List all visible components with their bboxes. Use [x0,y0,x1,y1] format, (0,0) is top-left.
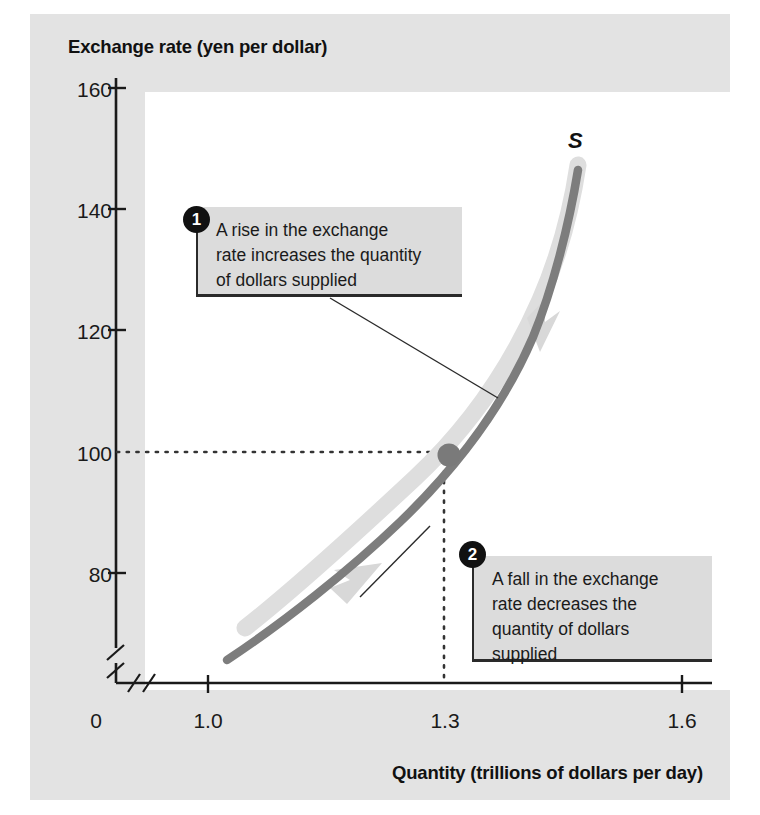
callout-2-text: A fall in the exchange rate decreases th… [474,556,712,676]
equilibrium-point [438,444,461,467]
callout-box-2: A fall in the exchange rate decreases th… [472,556,712,662]
callout-2-leader-line [360,526,430,597]
figure-page: Exchange rate (yen per dollar) Quantity … [0,0,760,815]
callout-2-badge: 2 [459,541,486,568]
callout-1-badge: 1 [183,206,210,233]
callout-1-text: A rise in the exchange rate increases th… [198,207,462,302]
callout-1-leader-line [330,298,498,398]
chart-graphics [0,0,760,815]
callout-box-1: A rise in the exchange rate increases th… [196,207,462,297]
